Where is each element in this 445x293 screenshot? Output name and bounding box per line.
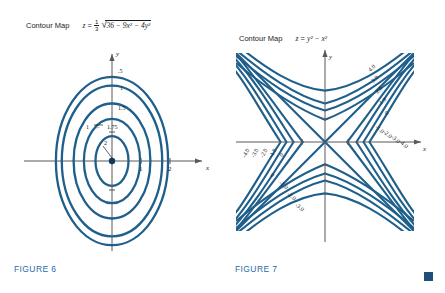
figure-6-plot <box>0 36 225 251</box>
figure-7-title-equals: = <box>301 34 305 43</box>
figure-6: Contour Map z = 13 36 − 9x² − 4y² <box>0 0 225 293</box>
figure-6-contour-label-1: 1 <box>120 85 123 91</box>
figure-6-axes <box>24 54 202 251</box>
figure-6-y-axis-label: y <box>116 50 119 58</box>
figure-6-inner-label-right: 1.75 <box>107 124 118 130</box>
figure-7-title-var: z <box>296 34 299 43</box>
figure-6-contour-label-2: 1.5 <box>118 105 126 111</box>
figure-6-frac-denominator: 3 <box>94 26 99 32</box>
figure-6-title-var: z <box>83 21 86 30</box>
figure-6-title-prefix: Contour Map <box>26 21 69 30</box>
figure-7-caption: FIGURE 7 <box>235 264 277 274</box>
figure-7-x-axis-label: x <box>423 145 426 153</box>
figure-6-frac-numerator: 1 <box>94 19 99 26</box>
figure-6-fraction: 13 <box>94 19 99 33</box>
figure-6-title-equals: = <box>88 21 92 30</box>
figure-6-x-tick-2: 2 <box>168 165 172 173</box>
figure-7: Contour Map z = y² − x² <box>225 0 445 293</box>
figure-6-x-axis-label: x <box>206 164 209 172</box>
figure-6-title: Contour Map z = 13 36 − 9x² − 4y² <box>26 19 151 33</box>
figure-6-radicand: 36 − 9x² − 4y² <box>105 20 151 30</box>
figure-7-title-rhs: y² − x² <box>307 34 327 43</box>
figure-6-x-tick-1: 1 <box>139 165 143 173</box>
figure-6-radical: 36 − 9x² − 4y² <box>101 20 151 30</box>
figure-6-caption: FIGURE 6 <box>14 264 56 274</box>
figure-6-inner-label-left: 1 <box>86 124 89 130</box>
figure-6-center-label: 2 <box>104 140 107 146</box>
figure-7-y-axis-label: y <box>329 53 332 61</box>
figure-6-inner-label-arrow: ← <box>95 124 101 130</box>
figure-6-contour-label-0: .5 <box>118 68 123 74</box>
figure-7-title: Contour Map z = y² − x² <box>239 34 327 43</box>
end-of-section-marker <box>424 272 433 281</box>
figure-7-title-prefix: Contour Map <box>239 34 282 43</box>
